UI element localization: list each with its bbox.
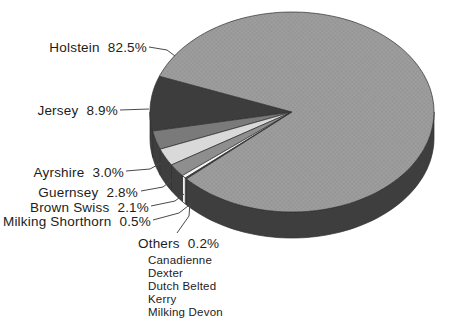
pie-side-milking-shorthorn: [182, 176, 185, 204]
slice-label-holstein: Holstein82.5%: [49, 40, 147, 55]
slice-label-ayrshire: Ayrshire3.0%: [34, 165, 124, 180]
slice-name: Ayrshire: [34, 165, 85, 180]
others-breed-item: Kerry: [148, 293, 223, 306]
slice-label-brown-swiss: Brown Swiss2.1%: [30, 200, 149, 215]
slice-name: Others: [138, 236, 180, 251]
slice-name: Brown Swiss: [30, 200, 109, 215]
slice-percent: 8.9%: [86, 103, 118, 118]
slice-label-milking-shorthorn: Milking Shorthorn0.5%: [3, 214, 151, 229]
others-breed-item: Dutch Belted: [148, 280, 223, 293]
slice-name: Holstein: [49, 40, 99, 55]
slice-percent: 2.8%: [106, 185, 138, 200]
slice-percent: 0.2%: [188, 236, 220, 251]
slice-percent: 2.1%: [117, 200, 149, 215]
slice-label-others: Others0.2%: [138, 236, 219, 251]
slice-percent: 3.0%: [92, 165, 124, 180]
slice-name: Jersey: [37, 103, 78, 118]
leader-line-jersey: [120, 109, 149, 110]
slice-percent: 0.5%: [119, 214, 151, 229]
slice-label-jersey: Jersey8.9%: [37, 103, 118, 118]
others-breed-list: CanadienneDexterDutch BeltedKerryMilking…: [148, 254, 223, 319]
slice-label-guernsey: Guernsey2.8%: [38, 185, 138, 200]
slice-name: Guernsey: [38, 185, 98, 200]
others-breed-item: Canadienne: [148, 254, 223, 267]
pie-top-faces: [150, 12, 434, 212]
slice-name: Milking Shorthorn: [3, 214, 111, 229]
figure-canvas: Holstein82.5%Jersey8.9%Ayrshire3.0%Guern…: [0, 0, 455, 324]
leader-line-milking-shorthorn: [153, 206, 188, 220]
leader-line-holstein: [149, 47, 175, 56]
others-breed-item: Milking Devon: [148, 306, 223, 319]
others-breed-item: Dexter: [148, 267, 223, 280]
leader-line-others: [177, 203, 190, 233]
slice-percent: 82.5%: [108, 40, 147, 55]
